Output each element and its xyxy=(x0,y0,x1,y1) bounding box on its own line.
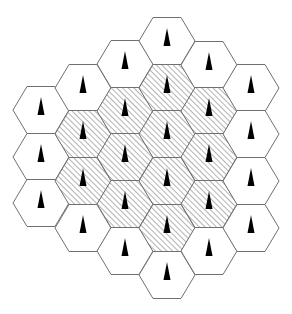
hex-cell-diagram xyxy=(0,0,292,314)
cell-grid xyxy=(13,18,279,299)
